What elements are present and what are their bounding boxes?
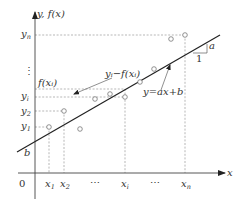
point-xn-yn <box>183 33 188 38</box>
y-tick-y2: y2 <box>20 105 31 118</box>
point-x2-y2 <box>62 109 67 114</box>
data-point <box>169 37 174 42</box>
point-xi-yi <box>123 95 128 100</box>
data-points <box>47 33 188 132</box>
slope-triangle <box>193 44 207 53</box>
data-point <box>78 127 83 132</box>
y-tick-y1: y1 <box>20 120 31 133</box>
diagram-canvas: y, f(x) x 0 x1 x2 ⋯ xi ⋯ xn yn ⋮ yi y2 y… <box>0 0 239 199</box>
y-tick-labels: yn ⋮ yi y2 y1 b <box>20 28 34 158</box>
x-tick-ellipsis-1: ⋯ <box>90 177 100 188</box>
y-tick-vellipsis: ⋮ <box>24 65 34 76</box>
equation-label: y=ax+b <box>142 86 183 97</box>
x-tick-ellipsis-2: ⋯ <box>150 177 160 188</box>
x-tick-xi: xi <box>121 178 129 191</box>
origin-label: 0 <box>19 178 25 189</box>
x-tick-labels: x1 x2 ⋯ xi ⋯ xn <box>45 177 191 191</box>
x-tick-x1: x1 <box>45 178 55 191</box>
regression-diagram: y, f(x) x 0 x1 x2 ⋯ xi ⋯ xn yn ⋮ yi y2 y… <box>0 0 239 199</box>
slope-rise-label: a <box>209 40 215 51</box>
x-tick-xn: xn <box>181 178 191 191</box>
data-point <box>152 67 157 72</box>
y-tick-b: b <box>24 147 30 158</box>
guide-lines <box>35 35 185 173</box>
data-point <box>138 80 143 85</box>
x-tick-x2: x2 <box>60 178 70 191</box>
slope-run-label: 1 <box>196 53 202 64</box>
point-x1-y1 <box>47 125 52 130</box>
y-tick-yn: yn <box>20 28 31 41</box>
residual-label: yᵢ−f(xᵢ) <box>104 68 140 79</box>
y-tick-yi: yi <box>20 90 29 103</box>
y-axis-label: y, f(x) <box>36 8 65 19</box>
data-point <box>93 97 98 102</box>
x-axis-label: x <box>227 167 233 178</box>
regression-line <box>17 35 220 152</box>
fitted-value-label: f(xᵢ) <box>37 77 57 88</box>
residual-arrow <box>74 78 112 94</box>
data-point <box>108 92 113 97</box>
